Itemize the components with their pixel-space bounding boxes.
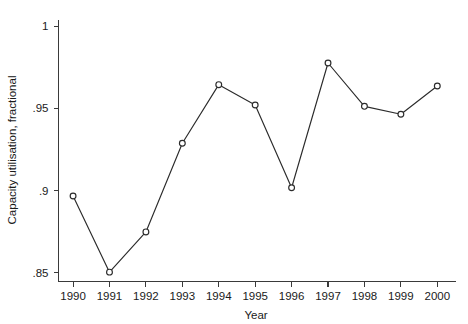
x-tick-label: 1995: [242, 290, 268, 302]
data-point-marker: [252, 102, 258, 108]
data-point-marker: [107, 269, 113, 275]
y-tick-label: .9: [39, 185, 49, 197]
data-point-marker: [179, 140, 185, 146]
x-tick-label: 1999: [388, 290, 414, 302]
x-tick-label: 1993: [170, 290, 196, 302]
x-tick-label: 1996: [279, 290, 305, 302]
x-tick-label: 1997: [315, 290, 341, 302]
x-tick-label: 1990: [60, 290, 86, 302]
data-point-marker: [143, 229, 149, 235]
y-tick-label: .95: [33, 102, 49, 114]
x-tick-label: 1991: [97, 290, 123, 302]
x-tick-label: 1998: [352, 290, 378, 302]
chart-canvas: .85.9.951 199019911992199319941995199619…: [0, 0, 468, 324]
x-tick-label: 1994: [206, 290, 232, 302]
data-point-marker: [70, 193, 76, 199]
capacity-utilisation-line-chart: .85.9.951 199019911992199319941995199619…: [0, 0, 468, 324]
chart-background: [0, 0, 468, 324]
data-point-marker: [398, 111, 404, 117]
y-axis-title: Capacity utilisation, fractional: [6, 76, 18, 225]
y-tick-label: 1: [42, 20, 48, 32]
y-tick-label: .85: [33, 267, 49, 279]
x-axis-title: Year: [244, 309, 267, 321]
data-point-marker: [362, 103, 368, 109]
data-point-marker: [325, 60, 331, 66]
data-point-marker: [289, 185, 295, 191]
data-point-marker: [216, 82, 222, 88]
x-tick-label: 2000: [424, 290, 450, 302]
data-point-marker: [434, 83, 440, 89]
x-tick-label: 1992: [133, 290, 159, 302]
